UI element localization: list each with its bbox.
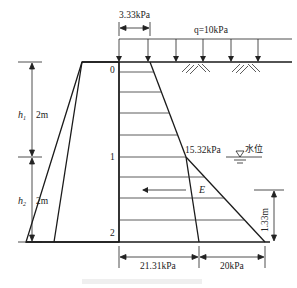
wall-front-face	[54, 62, 82, 242]
layer-1-thickness: 2m	[36, 110, 49, 120]
surcharge-load	[119, 39, 292, 61]
earth-pressure-upper-line	[150, 62, 186, 157]
point-0-label: 0	[110, 65, 115, 75]
point1-pressure-label: 15.32kPa	[185, 145, 221, 155]
retaining-wall-diagram: q=10kPa 3.33kPa 0 1 2 15.32kPa 水位 E 1.33…	[0, 0, 297, 288]
bottom-water-pressure-label: 20kPa	[220, 261, 245, 271]
water-level-label: 水位	[245, 143, 263, 154]
top-pressure-label: 3.33kPa	[119, 10, 151, 20]
point-1-label: 1	[110, 152, 115, 162]
bottom-earth-pressure-label: 21.31kPa	[140, 261, 176, 271]
figure-caption	[82, 279, 202, 284]
retaining-wall	[26, 62, 119, 242]
layer-dimension-line	[18, 62, 42, 242]
resultant-height-label: 1.33m	[260, 207, 270, 232]
layer-2-thickness: 2m	[36, 196, 49, 206]
soil-hatch-symbol	[182, 64, 210, 74]
water-pressure-line	[186, 157, 265, 242]
layer-2-symbol: h2	[18, 195, 26, 207]
point-2-label: 2	[110, 228, 115, 238]
surcharge-label: q=10kPa	[194, 25, 229, 35]
soil-hatch-symbol	[232, 64, 260, 74]
layer-1-symbol: h1	[18, 109, 26, 121]
resultant-label: E	[198, 184, 205, 195]
top-pressure-dimension	[119, 22, 150, 36]
